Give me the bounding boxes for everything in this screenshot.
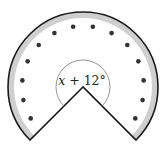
dot bbox=[20, 78, 25, 83]
dot bbox=[91, 25, 96, 30]
angle-label: x + 12° bbox=[58, 73, 106, 88]
dot bbox=[21, 98, 26, 103]
dot bbox=[141, 78, 146, 83]
angle-operator: + bbox=[65, 73, 83, 88]
angle-value: 12° bbox=[84, 73, 106, 88]
dot bbox=[136, 59, 141, 64]
dot bbox=[52, 31, 57, 36]
dot bbox=[109, 31, 114, 36]
dot bbox=[36, 43, 41, 48]
dot bbox=[133, 116, 138, 121]
dot bbox=[71, 25, 76, 30]
dot bbox=[140, 98, 145, 103]
diagram-canvas: x + 12° bbox=[0, 0, 165, 149]
sector-figure: x + 12° bbox=[0, 0, 165, 149]
dot bbox=[28, 116, 33, 121]
dot bbox=[25, 59, 30, 64]
dot bbox=[125, 43, 130, 48]
angle-variable: x bbox=[58, 73, 65, 88]
